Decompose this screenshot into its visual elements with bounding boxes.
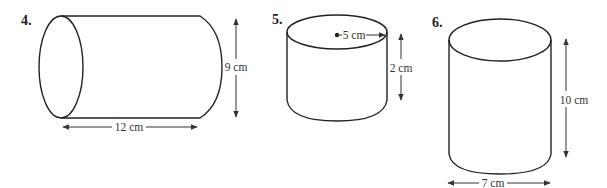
figure-4: 4. 9 cm 12 cm (21, 13, 247, 133)
figure-5: 5. 5 cm 2 cm (272, 12, 412, 121)
diameter-label-6: 7 cm (482, 177, 505, 188)
cylinder-4-end-face (39, 16, 83, 118)
cylinder-diagrams: 4. 9 cm 12 cm 5. 5 cm 2 cm (0, 0, 607, 188)
height-label-4: 9 cm (225, 61, 248, 73)
cylinder-5-top-face (287, 15, 387, 49)
diameter-arrow-6: 7 cm (448, 177, 550, 188)
radius-label-5: 5 cm (343, 29, 366, 41)
height-arrow-5: 2 cm (390, 34, 413, 100)
figure-6-number: 6. (432, 15, 443, 30)
cylinder-5-body (287, 32, 387, 121)
figure-4-number: 4. (21, 13, 32, 28)
cylinder-6-body (449, 40, 551, 174)
height-arrow-6: 10 cm (560, 39, 588, 157)
cylinder-6-top-face (449, 19, 551, 61)
radius-arrow-5: 5 cm (335, 29, 385, 41)
figure-5-number: 5. (272, 12, 283, 27)
length-label-4: 12 cm (115, 121, 143, 133)
height-label-5: 2 cm (390, 62, 413, 74)
height-label-6: 10 cm (560, 94, 588, 106)
cylinder-4-body (61, 16, 222, 118)
height-arrow-4: 9 cm (225, 19, 248, 117)
figure-6: 6. 10 cm 7 cm (432, 15, 588, 188)
length-arrow-4: 12 cm (63, 121, 197, 133)
